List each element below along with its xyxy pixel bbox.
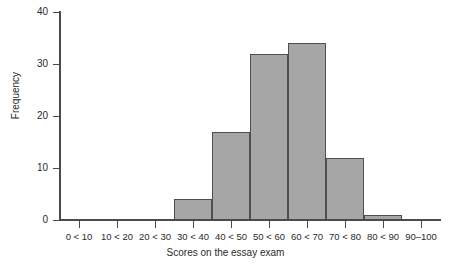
x-tick-label: 30 < 40 [172,231,214,242]
y-tick-label: 20 [22,111,48,121]
x-tick-mark [79,221,80,228]
histogram-bar [174,199,212,220]
y-tick-label-text: 30 [22,59,48,69]
y-tick-mark [53,168,60,169]
y-tick-label: 0 [22,215,48,225]
y-axis-title: Frequency [10,56,21,136]
y-tick-label-text: 0 [22,215,48,225]
y-tick-mark [53,116,60,117]
x-tick-label: 40 < 50 [210,231,252,242]
histogram-chart: Frequency 010203040 0 < 1010 < 2020 < 30… [0,0,451,268]
x-tick-label: 90–100 [400,231,442,242]
y-tick-label-text: 40 [22,7,48,17]
histogram-bar [212,132,250,220]
y-tick-label: 10 [22,163,48,173]
y-tick-label: 30 [22,59,48,69]
x-tick-label: 50 < 60 [248,231,290,242]
x-tick-label: 10 < 20 [96,231,138,242]
y-tick-label-text: 20 [22,111,48,121]
y-tick-label: 40 [22,7,48,17]
x-tick-label: 70 < 80 [324,231,366,242]
x-tick-mark [421,221,422,228]
y-tick-label-text: 10 [22,163,48,173]
x-tick-mark [345,221,346,228]
x-tick-mark [307,221,308,228]
x-tick-mark [383,221,384,228]
x-axis-title: Scores on the essay exam [0,247,451,259]
x-tick-mark [193,221,194,228]
plot-area [60,12,440,220]
x-tick-label: 80 < 90 [362,231,404,242]
x-tick-mark [231,221,232,228]
x-tick-mark [269,221,270,228]
y-tick-mark [53,12,60,13]
x-tick-label: 20 < 30 [134,231,176,242]
histogram-bar [326,158,364,220]
y-tick-mark [53,64,60,65]
histogram-bar [288,43,326,220]
x-tick-label: 60 < 70 [286,231,328,242]
x-tick-mark [155,221,156,228]
x-tick-mark [117,221,118,228]
x-tick-label: 0 < 10 [58,231,100,242]
histogram-bar [250,54,288,220]
